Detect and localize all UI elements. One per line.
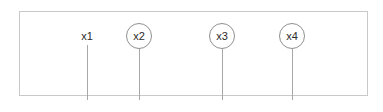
marker-x3-label: x3: [202, 31, 242, 42]
marker-x4-leader-line: [292, 49, 293, 100]
marker-x2-leader-line: [139, 49, 140, 100]
marker-x1-label: x1: [67, 31, 107, 42]
marker-x2-label: x2: [119, 31, 159, 42]
bounding-rectangle: [19, 11, 368, 96]
diagram-canvas: x1x2x3x4: [0, 0, 383, 112]
marker-x3-leader-line: [222, 49, 223, 100]
marker-x1-leader-line: [87, 45, 88, 100]
marker-x4-label: x4: [272, 31, 312, 42]
